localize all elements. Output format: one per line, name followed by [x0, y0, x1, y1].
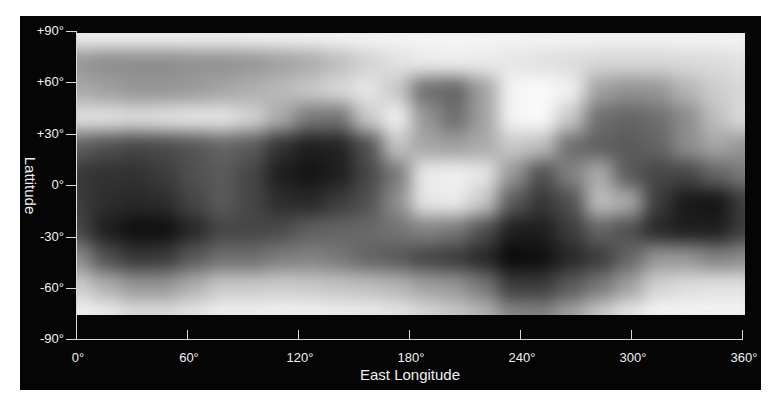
- map-cell: [77, 188, 92, 216]
- map-cell: [701, 216, 730, 244]
- map-cell: [353, 104, 382, 132]
- map-cell: [701, 48, 730, 76]
- map-cell: [672, 300, 701, 315]
- map-cell: [266, 160, 295, 188]
- map-cell: [237, 132, 266, 160]
- map-cell: [527, 132, 556, 160]
- map-cell: [411, 160, 440, 188]
- map-cell: [353, 300, 382, 315]
- map-cell: [382, 33, 411, 48]
- map-cell: [237, 244, 266, 272]
- map-cell: [295, 33, 324, 48]
- map-cell: [469, 216, 498, 244]
- map-cell: [672, 160, 701, 188]
- map-cell: [92, 272, 121, 300]
- map-cell: [411, 188, 440, 216]
- x-tick: [187, 330, 188, 340]
- map-cell: [77, 216, 92, 244]
- map-cell: [382, 188, 411, 216]
- map-cell: [266, 272, 295, 300]
- map-cell: [150, 132, 179, 160]
- map-cell: [701, 33, 730, 48]
- map-cell: [324, 272, 353, 300]
- map-cell: [150, 272, 179, 300]
- map-cell: [701, 188, 730, 216]
- map-cell: [730, 132, 745, 160]
- map-cell: [295, 216, 324, 244]
- map-cell: [643, 216, 672, 244]
- map-cell: [411, 48, 440, 76]
- map-cell: [266, 104, 295, 132]
- map-plot-area: [77, 33, 745, 315]
- map-cell: [411, 216, 440, 244]
- map-cell: [208, 244, 237, 272]
- map-cell: [643, 300, 672, 315]
- map-cell: [440, 48, 469, 76]
- map-cell: [614, 33, 643, 48]
- map-cell: [556, 216, 585, 244]
- map-cell: [730, 48, 745, 76]
- map-cell: [150, 216, 179, 244]
- map-cell: [701, 160, 730, 188]
- map-cell: [353, 76, 382, 104]
- y-tick: [66, 237, 76, 238]
- map-cell: [179, 244, 208, 272]
- map-cell: [295, 272, 324, 300]
- map-cell: [179, 76, 208, 104]
- map-cell: [527, 104, 556, 132]
- map-cell: [266, 300, 295, 315]
- y-tick-label: +60°: [18, 74, 64, 89]
- map-cell: [266, 132, 295, 160]
- map-cell: [498, 216, 527, 244]
- map-cell: [527, 33, 556, 48]
- map-cell: [324, 160, 353, 188]
- map-cell: [672, 104, 701, 132]
- map-cell: [208, 104, 237, 132]
- map-cell: [208, 76, 237, 104]
- map-cell: [92, 216, 121, 244]
- map-cell: [411, 244, 440, 272]
- map-cell: [121, 300, 150, 315]
- map-cell: [585, 76, 614, 104]
- map-cell: [614, 160, 643, 188]
- map-cell: [150, 160, 179, 188]
- map-cell: [353, 272, 382, 300]
- map-cell: [614, 188, 643, 216]
- map-cell: [643, 244, 672, 272]
- map-cell: [324, 33, 353, 48]
- map-cell: [179, 300, 208, 315]
- y-tick: [66, 339, 76, 340]
- map-cell: [324, 76, 353, 104]
- map-cell: [469, 48, 498, 76]
- map-cell: [92, 160, 121, 188]
- map-cell: [672, 244, 701, 272]
- map-cell: [77, 300, 92, 315]
- map-cell: [498, 76, 527, 104]
- map-cell: [672, 33, 701, 48]
- map-cell: [556, 160, 585, 188]
- map-cell: [527, 160, 556, 188]
- map-cell: [498, 48, 527, 76]
- map-cell: [179, 188, 208, 216]
- map-cell: [179, 48, 208, 76]
- map-cell: [382, 244, 411, 272]
- map-cell: [614, 300, 643, 315]
- map-cell: [440, 132, 469, 160]
- map-cell: [150, 104, 179, 132]
- map-cell: [440, 300, 469, 315]
- map-cell: [643, 33, 672, 48]
- map-cell: [237, 160, 266, 188]
- y-axis-title: Lattitude: [22, 136, 39, 236]
- map-cell: [498, 33, 527, 48]
- map-cell: [614, 132, 643, 160]
- map-cell: [121, 272, 150, 300]
- map-cell: [614, 48, 643, 76]
- map-cell: [208, 216, 237, 244]
- map-cell: [411, 76, 440, 104]
- map-cell: [469, 272, 498, 300]
- map-cell: [77, 76, 92, 104]
- map-cell: [324, 132, 353, 160]
- y-tick: [66, 82, 76, 83]
- map-cell: [585, 272, 614, 300]
- map-cell: [295, 104, 324, 132]
